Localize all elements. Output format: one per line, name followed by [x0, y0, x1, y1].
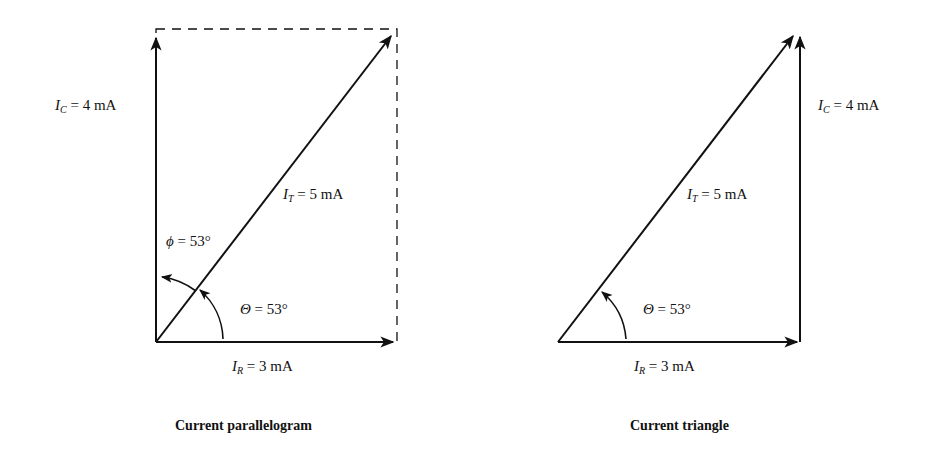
current-parallelogram — [156, 29, 397, 342]
ir-label: IR = 3 mA — [232, 359, 293, 376]
phi-angle-arc — [162, 277, 196, 291]
triangle-caption: Current triangle — [630, 418, 729, 434]
it-vector-arrow — [558, 36, 793, 342]
theta-angle-arc — [200, 290, 223, 339]
current-triangle — [558, 36, 800, 342]
ic-label: IC = 4 mA — [818, 98, 879, 115]
ir-label: IR = 3 mA — [634, 359, 695, 376]
theta-angle-arc — [602, 292, 626, 339]
it-vector-arrow — [156, 36, 391, 342]
theta-label: Θ = 53° — [240, 302, 288, 317]
phi-label: ϕ = 53° — [166, 234, 211, 249]
parallelogram-caption: Current parallelogram — [175, 418, 312, 434]
phasor-diagrams — [0, 0, 950, 463]
theta-label: Θ = 53° — [643, 302, 691, 317]
ic-label: IC = 4 mA — [55, 98, 116, 115]
it-label: IT = 5 mA — [283, 187, 343, 204]
it-label: IT = 5 mA — [687, 187, 747, 204]
